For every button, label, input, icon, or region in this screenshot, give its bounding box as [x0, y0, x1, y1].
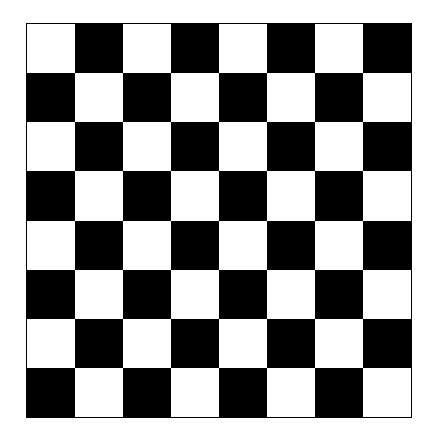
dark-square	[315, 73, 363, 122]
dark-square	[219, 270, 267, 319]
light-square	[75, 73, 123, 122]
dark-square	[27, 171, 75, 220]
light-square	[363, 73, 411, 122]
dark-square	[171, 221, 219, 270]
light-square	[267, 270, 315, 319]
dark-square	[219, 73, 267, 122]
dark-square	[171, 319, 219, 368]
light-square	[27, 221, 75, 270]
dark-square	[123, 368, 171, 417]
dark-square	[123, 171, 171, 220]
dark-square	[363, 24, 411, 73]
dark-square	[267, 122, 315, 171]
dark-square	[267, 24, 315, 73]
dark-square	[219, 171, 267, 220]
dark-square	[123, 270, 171, 319]
light-square	[123, 122, 171, 171]
dark-square	[267, 319, 315, 368]
light-square	[219, 122, 267, 171]
light-square	[315, 319, 363, 368]
dark-square	[171, 122, 219, 171]
dark-square	[123, 73, 171, 122]
light-square	[75, 368, 123, 417]
light-square	[267, 73, 315, 122]
dark-square	[75, 122, 123, 171]
light-square	[219, 221, 267, 270]
dark-square	[315, 368, 363, 417]
light-square	[219, 319, 267, 368]
dark-square	[315, 270, 363, 319]
dark-square	[363, 122, 411, 171]
dark-square	[27, 368, 75, 417]
dark-square	[75, 221, 123, 270]
light-square	[27, 319, 75, 368]
light-square	[219, 24, 267, 73]
light-square	[267, 368, 315, 417]
light-square	[171, 73, 219, 122]
light-square	[123, 221, 171, 270]
light-square	[171, 368, 219, 417]
light-square	[363, 171, 411, 220]
light-square	[315, 122, 363, 171]
dark-square	[315, 171, 363, 220]
dark-square	[27, 73, 75, 122]
light-square	[27, 24, 75, 73]
dark-square	[27, 270, 75, 319]
dark-square	[363, 319, 411, 368]
light-square	[75, 270, 123, 319]
dark-square	[363, 221, 411, 270]
dark-square	[219, 368, 267, 417]
light-square	[123, 24, 171, 73]
light-square	[171, 171, 219, 220]
light-square	[123, 319, 171, 368]
light-square	[27, 122, 75, 171]
light-square	[171, 270, 219, 319]
light-square	[315, 24, 363, 73]
dark-square	[267, 221, 315, 270]
light-square	[363, 368, 411, 417]
light-square	[315, 221, 363, 270]
checkerboard	[26, 23, 412, 418]
dark-square	[171, 24, 219, 73]
light-square	[363, 270, 411, 319]
light-square	[267, 171, 315, 220]
dark-square	[75, 24, 123, 73]
dark-square	[75, 319, 123, 368]
light-square	[75, 171, 123, 220]
